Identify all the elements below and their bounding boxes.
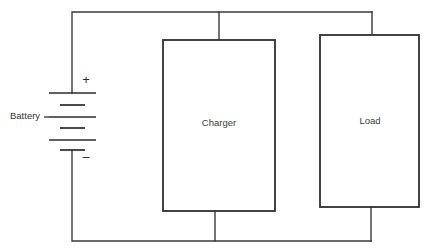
battery-positive-terminal-label: +	[82, 72, 90, 87]
charger-box-label: Charger	[202, 117, 236, 128]
battery-label: Battery	[10, 110, 40, 121]
circuit-svg: Battery + – Charger Load	[0, 0, 430, 252]
circuit-diagram: Battery + – Charger Load	[0, 0, 430, 252]
battery-negative-terminal-label: –	[82, 149, 90, 164]
load-box-label: Load	[359, 115, 380, 126]
